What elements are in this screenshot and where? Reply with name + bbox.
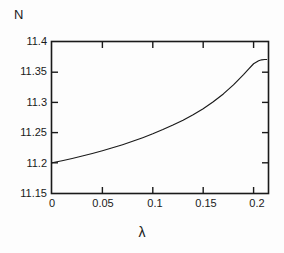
tick-marks [52, 42, 268, 193]
chart-figure: N 11.4 11.35 11.3 11.25 11.2 11.15 0 0.0… [0, 0, 284, 253]
plot-area [0, 0, 284, 253]
data-curve-line [52, 60, 267, 163]
plot-frame [52, 42, 269, 194]
